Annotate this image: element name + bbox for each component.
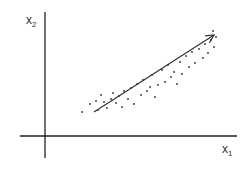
data-point xyxy=(133,103,135,105)
data-point xyxy=(149,86,151,88)
data-point xyxy=(215,36,217,38)
data-point xyxy=(81,111,83,113)
data-point xyxy=(100,94,102,96)
data-point xyxy=(115,102,117,104)
data-point xyxy=(112,92,114,94)
data-point xyxy=(202,57,204,59)
principal-arrow xyxy=(94,35,214,112)
data-point xyxy=(191,51,193,53)
data-point xyxy=(157,84,159,86)
data-point xyxy=(106,107,108,109)
data-point xyxy=(207,52,209,54)
data-point xyxy=(95,100,97,102)
data-point xyxy=(194,62,196,64)
x2-axis-label: x2 xyxy=(26,13,37,29)
data-point xyxy=(204,43,206,45)
arrowhead-icon xyxy=(205,35,214,43)
data-point xyxy=(146,90,148,92)
data-point xyxy=(188,66,190,68)
data-points xyxy=(81,30,217,113)
data-point xyxy=(121,106,123,108)
data-point xyxy=(181,73,183,75)
data-point xyxy=(103,101,105,103)
data-point xyxy=(176,83,178,85)
data-point xyxy=(164,81,166,83)
data-point xyxy=(154,96,156,98)
data-point xyxy=(140,94,142,96)
data-point xyxy=(89,103,91,105)
data-point xyxy=(212,30,214,32)
data-point xyxy=(123,90,125,92)
data-point xyxy=(198,48,200,50)
data-point xyxy=(185,55,187,57)
data-point xyxy=(170,76,172,78)
scatter-diagram: x2 x1 xyxy=(0,0,251,169)
data-point xyxy=(173,71,175,73)
x1-axis-label: x1 xyxy=(222,142,233,158)
data-point xyxy=(213,46,215,48)
data-point xyxy=(179,61,181,63)
data-point xyxy=(110,98,112,100)
data-point xyxy=(127,98,129,100)
